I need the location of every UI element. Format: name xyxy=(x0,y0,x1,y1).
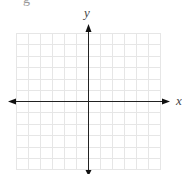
y-axis-down-arrow-icon xyxy=(86,170,92,174)
x-axis-label: x xyxy=(176,93,182,109)
y-axis-label: y xyxy=(84,5,90,21)
x-axis-right-arrow-icon xyxy=(162,99,170,105)
x-axis-left-arrow-icon xyxy=(8,99,16,105)
y-axis-up-arrow-icon xyxy=(86,24,92,32)
y-axis xyxy=(86,24,92,174)
coordinate-plane xyxy=(0,0,182,174)
